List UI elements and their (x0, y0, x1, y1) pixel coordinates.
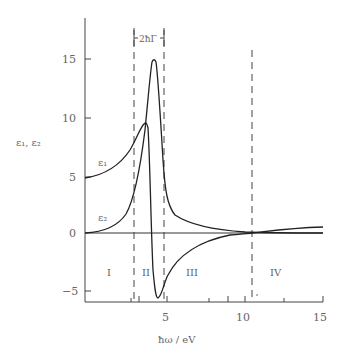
y-tick-5: 5 (69, 171, 76, 184)
x-tick-5: 5 (162, 311, 169, 324)
region-label-1: I (107, 267, 111, 278)
epsilon1-label: ε₁ (98, 157, 107, 168)
x-axis-label: ħω / eV (158, 334, 196, 345)
y-tick-neg5: −5 (62, 285, 78, 298)
y-tick-15: 15 (62, 53, 76, 66)
stray-dot (256, 294, 258, 296)
y-axis-label: ε₁, ε₂ (16, 137, 41, 148)
y-ticks (85, 59, 91, 291)
gamma-width-label: 2ħΓ (139, 34, 157, 44)
dielectric-function-chart: 15 10 5 0 −5 5 10 15 ε₁, ε₂ ħω / eV 2ħΓ … (0, 0, 344, 357)
epsilon1-curve (85, 123, 323, 298)
region-label-2: II (142, 267, 150, 278)
y-tick-0: 0 (69, 227, 76, 240)
x-tick-15: 15 (313, 311, 327, 324)
x-tick-10: 10 (236, 311, 250, 324)
epsilon2-curve (85, 60, 323, 233)
region-label-4: IV (270, 267, 282, 278)
epsilon2-label: ε₂ (98, 212, 107, 223)
y-tick-10: 10 (62, 112, 76, 125)
region-label-3: III (186, 267, 198, 278)
